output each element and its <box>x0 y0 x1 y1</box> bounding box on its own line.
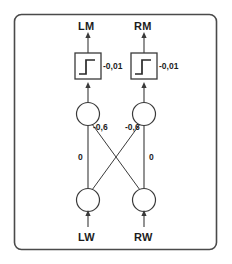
neural-network-diagram: LM RM -0,01 -0,01 -0,6 -0,6 0 0 LW RW <box>0 0 232 264</box>
output-label-lm: LM <box>78 21 94 32</box>
bias-label-left: -0,01 <box>103 62 122 71</box>
neuron-bottom-left <box>77 189 100 212</box>
activation-box-left <box>75 53 101 79</box>
arrowhead-box-right <box>141 82 146 88</box>
output-label-rm: RM <box>134 21 152 32</box>
weight-label-left-cross: -0,6 <box>93 123 108 132</box>
neuron-bottom-right <box>133 189 156 212</box>
activation-box-right <box>131 53 157 79</box>
weight-label-right-direct: 0 <box>149 153 154 162</box>
input-label-rw: RW <box>134 232 153 243</box>
weight-label-right-cross: -0,6 <box>125 123 140 132</box>
bias-label-right: -0,01 <box>159 62 178 71</box>
arrowhead-box-left <box>85 82 90 88</box>
weight-label-left-direct: 0 <box>78 153 83 162</box>
diagram-frame <box>15 15 217 250</box>
diagram-canvas <box>0 0 232 264</box>
arrowhead-rm <box>141 32 146 38</box>
arrowhead-lm <box>85 32 90 38</box>
input-label-lw: LW <box>78 232 95 243</box>
